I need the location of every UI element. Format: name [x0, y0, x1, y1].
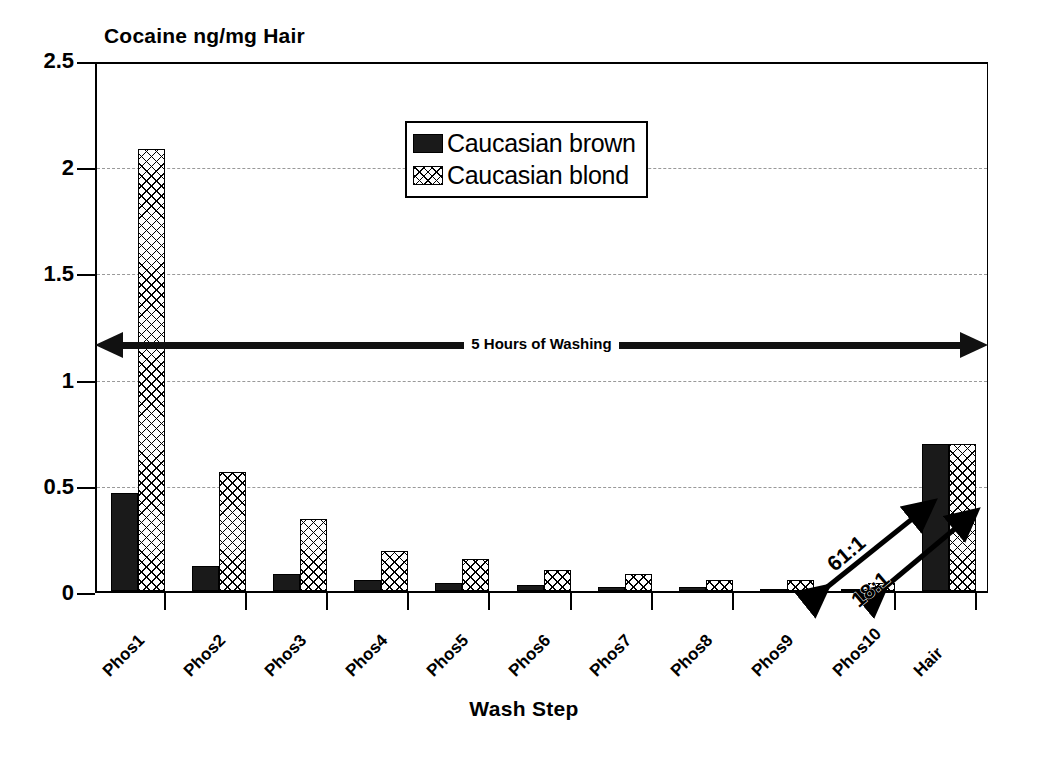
y-tick-label: 0	[14, 580, 74, 606]
bar-phos7-brown	[598, 587, 625, 591]
legend-item-caucasian-brown: Caucasian brown	[413, 127, 636, 159]
bar-phos8-brown	[679, 587, 706, 591]
x-tick-label-phos8: Phos8	[667, 631, 717, 681]
bar-phos6-brown	[517, 585, 544, 591]
y-axis: 2.5 2 1.5 1 0.5 0	[0, 0, 95, 758]
chart-title: Cocaine ng/mg Hair	[104, 24, 305, 48]
gridline-1.0	[97, 381, 987, 382]
x-tick-label-phos6: Phos6	[504, 631, 554, 681]
washing-span-text-wrap: 5 Hours of Washing	[95, 330, 988, 358]
y-tick-mark	[77, 487, 95, 489]
bar-hair-blond	[949, 444, 976, 591]
y-tick-label: 1.5	[14, 261, 74, 287]
legend-swatch-brown-icon	[413, 134, 443, 153]
x-tick-mark	[813, 593, 815, 610]
bar-phos1-brown	[111, 493, 138, 591]
y-tick-mark	[77, 62, 95, 64]
x-tick-mark	[975, 593, 977, 610]
bar-phos4-blond	[381, 551, 408, 591]
y-tick-label: 2.5	[14, 48, 74, 74]
legend-swatch-blond-icon	[413, 166, 443, 185]
x-tick-mark	[732, 593, 734, 610]
y-tick-mark	[77, 168, 95, 170]
legend-label: Caucasian brown	[447, 129, 636, 158]
y-tick-mark	[77, 593, 95, 595]
x-tick-mark	[894, 593, 896, 610]
bar-phos5-brown	[435, 583, 462, 591]
y-tick-label: 0.5	[14, 474, 74, 500]
x-tick-mark	[570, 593, 572, 610]
x-tick-label-phos3: Phos3	[261, 631, 311, 681]
x-tick-label-hair: Hair	[910, 643, 948, 681]
x-tick-label-phos7: Phos7	[586, 631, 636, 681]
bar-phos4-brown	[354, 580, 381, 591]
x-tick-mark	[164, 593, 166, 610]
washing-span-label: 5 Hours of Washing	[464, 335, 618, 352]
legend-item-caucasian-blond: Caucasian blond	[413, 159, 636, 191]
x-tick-mark	[488, 593, 490, 610]
x-tick-label-phos4: Phos4	[342, 631, 392, 681]
x-tick-mark	[326, 593, 328, 610]
y-tick-label: 1	[14, 368, 74, 394]
x-tick-label-phos9: Phos9	[748, 631, 798, 681]
bar-phos6-blond	[544, 570, 571, 591]
y-tick-label: 2	[14, 155, 74, 181]
bar-phos8-blond	[706, 580, 733, 591]
x-tick-label-phos2: Phos2	[180, 631, 230, 681]
legend-label: Caucasian blond	[447, 161, 629, 190]
x-tick-label-phos1: Phos1	[98, 631, 148, 681]
x-tick-label-phos5: Phos5	[423, 631, 473, 681]
x-axis-title: Wash Step	[0, 697, 1048, 721]
y-tick-mark	[77, 274, 95, 276]
legend: Caucasian brown Caucasian blond	[405, 121, 648, 198]
x-tick-mark	[245, 593, 247, 610]
bar-phos9-blond	[787, 580, 814, 591]
bar-phos7-blond	[625, 574, 652, 591]
bar-phos2-brown	[192, 566, 219, 591]
bar-phos1-blond	[138, 149, 165, 591]
chart-figure: Cocaine ng/mg Hair 2.5 2 1.5 1 0.5 0 Pho…	[0, 0, 1048, 758]
x-tick-label-phos10: Phos10	[829, 624, 886, 681]
bar-phos9-brown	[760, 589, 787, 591]
y-tick-mark	[77, 381, 95, 383]
washing-span-annotation: 5 Hours of Washing	[95, 330, 988, 358]
x-tick-mark	[407, 593, 409, 610]
x-tick-mark	[651, 593, 653, 610]
bar-phos3-brown	[273, 574, 300, 591]
bar-phos3-blond	[300, 519, 327, 591]
bar-hair-brown	[922, 444, 949, 591]
bar-phos2-blond	[219, 472, 246, 591]
gridline-1.5	[97, 274, 987, 275]
bar-phos5-blond	[462, 559, 489, 591]
